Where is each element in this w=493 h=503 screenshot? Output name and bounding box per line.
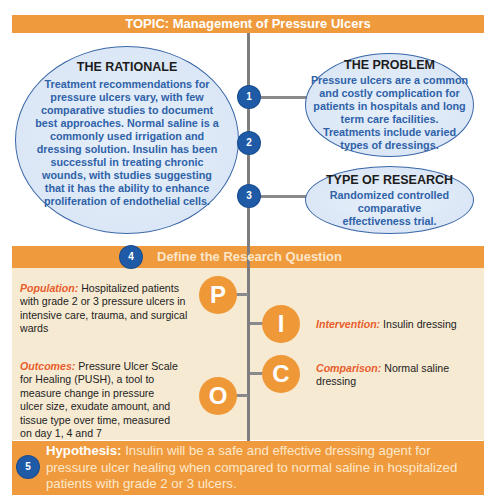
step-2-badge: 2 bbox=[238, 132, 260, 154]
problem-ellipse: THE PROBLEM Pressure ulcers are a common… bbox=[305, 53, 474, 157]
problem-title: THE PROBLEM bbox=[344, 58, 435, 72]
outcomes-label: Outcomes: bbox=[20, 360, 75, 372]
pico-p-circle: P bbox=[199, 276, 237, 314]
step-5-badge: 5 bbox=[17, 456, 39, 478]
research-type-body: Randomized controlled comparative effect… bbox=[325, 189, 455, 228]
pico-outcomes: Outcomes: Pressure Ulcer Scale for Heali… bbox=[20, 360, 180, 440]
pico-connector-line bbox=[247, 246, 250, 441]
rationale-body: Treatment recommendations for pressure u… bbox=[31, 78, 223, 208]
connector-o bbox=[236, 394, 248, 397]
step-3-badge: 3 bbox=[238, 185, 260, 207]
rationale-ellipse: THE RATIONALE Treatment recommendations … bbox=[15, 46, 239, 234]
pico-o-circle: O bbox=[199, 377, 237, 415]
comparison-label: Comparison: bbox=[316, 362, 381, 374]
pico-i-circle: I bbox=[262, 305, 300, 343]
research-question-title: Define the Research Question bbox=[157, 246, 342, 268]
intervention-label: Intervention: bbox=[316, 318, 380, 330]
problem-body: Pressure ulcers are a common and costly … bbox=[311, 74, 469, 152]
step-4-badge: 4 bbox=[120, 246, 142, 268]
hypothesis-text: Hypothesis: Insulin will be a safe and e… bbox=[46, 443, 478, 493]
research-type-ellipse: TYPE OF RESEARCH Randomized controlled c… bbox=[305, 166, 474, 234]
connector-p bbox=[236, 293, 248, 296]
step-1-badge: 1 bbox=[238, 86, 260, 108]
research-type-title: TYPE OF RESEARCH bbox=[326, 173, 453, 187]
topic-header: TOPIC: Management of Pressure Ulcers bbox=[12, 15, 484, 33]
pico-intervention: Intervention: Insulin dressing bbox=[316, 318, 481, 331]
intervention-text: Insulin dressing bbox=[380, 318, 457, 330]
hypothesis-label: Hypothesis: bbox=[46, 443, 121, 458]
pico-population: Population: Hospitalized patients with g… bbox=[20, 282, 190, 336]
rationale-title: THE RATIONALE bbox=[77, 60, 177, 74]
pico-c-circle: C bbox=[262, 355, 300, 393]
population-label: Population: bbox=[20, 282, 78, 294]
pico-comparison: Comparison: Normal saline dressing bbox=[316, 362, 456, 389]
